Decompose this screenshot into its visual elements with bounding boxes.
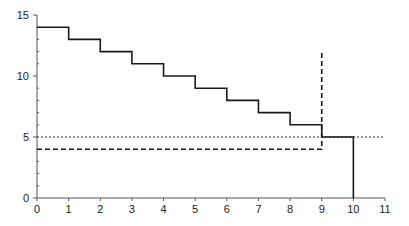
x-tick-label: 3 (129, 203, 135, 215)
series-layer (37, 27, 385, 198)
x-tick-label: 0 (34, 203, 40, 215)
y-tick-label: 0 (23, 192, 29, 204)
y-tick-label: 5 (23, 131, 29, 143)
x-tick-label: 6 (224, 203, 230, 215)
x-tick-label: 5 (192, 203, 198, 215)
x-tick-label: 9 (319, 203, 325, 215)
y-tick-label: 15 (17, 9, 29, 21)
x-tick-label: 1 (66, 203, 72, 215)
x-tick-label: 10 (347, 203, 359, 215)
step-function-line (37, 27, 353, 198)
x-tick-label: 8 (287, 203, 293, 215)
step-chart: 05101501234567891011 (0, 0, 409, 226)
x-tick-label: 4 (160, 203, 166, 215)
x-tick-label: 7 (255, 203, 261, 215)
y-tick-label: 10 (17, 70, 29, 82)
x-tick-label: 11 (379, 203, 390, 215)
dashed-threshold-line (37, 52, 322, 150)
x-tick-label: 2 (97, 203, 103, 215)
